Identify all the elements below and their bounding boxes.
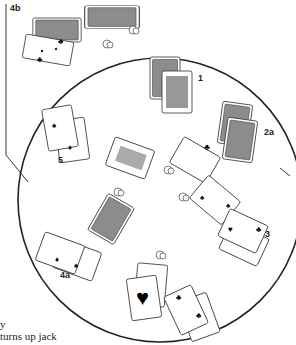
caption: y turns up jack — [0, 318, 57, 342]
card-table-diagram: ♣♣ ♠♦ ♣ ♠♠ ♥♣ ♦♠ ♥ ♣♣ — [0, 0, 296, 345]
svg-text:♥: ♥ — [228, 225, 233, 234]
svg-text:♣: ♣ — [196, 311, 202, 320]
svg-text:♣: ♣ — [256, 225, 262, 234]
card-back-4b-b — [85, 6, 140, 29]
caption-line-1: y — [0, 318, 57, 330]
label-player-1: 1 — [198, 73, 203, 83]
label-player-3: 3 — [265, 229, 270, 239]
label-4b: 4b — [10, 3, 21, 13]
svg-text:♦: ♦ — [55, 255, 59, 264]
svg-text:♦: ♦ — [68, 143, 72, 152]
svg-text:♥: ♥ — [136, 285, 149, 310]
label-2a: 2a — [264, 127, 274, 137]
svg-text:♣: ♣ — [58, 37, 64, 46]
svg-text:♣: ♣ — [176, 293, 182, 302]
caption-line-2: turns up jack — [0, 330, 57, 342]
svg-text:♣: ♣ — [37, 55, 43, 64]
svg-text:♣: ♣ — [204, 142, 210, 152]
label-player-5: 5 — [58, 155, 63, 165]
label-4a: 4a — [60, 270, 70, 280]
